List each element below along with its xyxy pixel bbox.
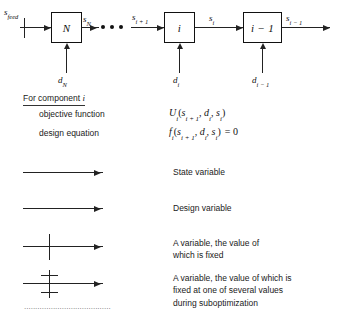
design-line-di-minus-1: [262, 49, 263, 73]
legend-state-variable-arrowhead-icon: [94, 170, 101, 176]
legend-suboptimization-cross-top: [41, 275, 58, 276]
legend-fixed-variable-tick: [49, 234, 50, 260]
figure-root: sfeed N sN si + 1 i: [0, 0, 338, 310]
component-heading-text: For component: [23, 93, 80, 103]
stream-label-si-sub: i: [213, 19, 215, 26]
design-dN-arrowhead-icon: [64, 43, 70, 49]
component-heading-symbol: i: [83, 93, 86, 103]
objective-arg2-sub: i: [209, 115, 211, 123]
legend-state-variable-text: State variable: [173, 166, 225, 178]
process-box-N: N: [51, 12, 82, 43]
figure-caption-clipped: .......................................: [0, 302, 338, 310]
legend-row-design-variable: Design variable: [0, 196, 338, 224]
stream-label-si-minus-1: si − 1: [286, 14, 302, 23]
design-di-arrowhead-icon: [177, 43, 183, 49]
feed-fixed-tick: [24, 18, 25, 38]
component-heading: For component i: [23, 92, 85, 106]
objective-arg1-sub: i + 1: [185, 115, 199, 123]
legend: State variable Design variable A variabl…: [0, 160, 338, 305]
objective-func-close: ): [222, 107, 225, 118]
stream-label-sN: sN: [83, 15, 91, 24]
design-equation-label: design equation: [39, 128, 99, 139]
stream-label-feed-base: s: [4, 7, 8, 17]
objective-function-expression: Ui(si + 1, di, si): [169, 108, 225, 118]
legend-row-fixed-variable: A variable, the value of which is fixed: [0, 232, 338, 264]
design-label-dN-base: d: [58, 75, 63, 85]
stream-label-si-minus-1-base: s: [286, 13, 290, 23]
process-chain-diagram: sfeed N sN si + 1 i: [0, 0, 338, 88]
figure-caption-text: .......................................: [24, 302, 111, 310]
stream-label-feed: sfeed: [4, 8, 18, 17]
ellipsis-dot-1: [101, 25, 105, 29]
design-eq-close: ): [217, 126, 220, 137]
stream-label-sN-sub: N: [87, 20, 91, 27]
stream-label-si-minus-1-sub: i − 1: [290, 19, 303, 26]
stream-label-feed-sub: feed: [8, 13, 19, 20]
ellipsis-dot-2: [110, 25, 114, 29]
process-box-i-minus-1: i − 1: [243, 12, 282, 43]
legend-design-variable-arrowhead-icon: [94, 206, 101, 212]
feed-arrowhead-icon: [44, 25, 51, 31]
stream-label-si-plus-1: si + 1: [132, 13, 148, 22]
stream-si-minus-1-arrowhead-icon: [323, 25, 330, 31]
stream-label-si: si: [209, 14, 214, 23]
legend-row-state-variable: State variable: [0, 160, 338, 188]
design-arg2-base: d: [200, 126, 205, 137]
legend-suboptimization-variable-arrowhead-icon: [94, 281, 101, 287]
design-label-di-minus-1-sub: i − 1: [257, 81, 270, 88]
stream-label-si-base: s: [209, 13, 213, 23]
legend-suboptimization-cross-bottom: [41, 292, 58, 293]
stream-label-sN-base: s: [83, 14, 87, 24]
design-label-dN-sub: N: [63, 81, 67, 88]
legend-row-suboptimization-variable: A variable, the value of which is fixed …: [0, 268, 338, 306]
legend-design-variable-line: [23, 208, 103, 209]
objective-arg3-sub: i: [220, 115, 222, 123]
legend-fixed-variable-text: A variable, the value of which is fixed: [173, 237, 259, 262]
process-box-i-minus-1-label: i − 1: [251, 22, 274, 34]
design-line-dN: [66, 49, 67, 73]
legend-design-variable-text: Design variable: [173, 202, 232, 214]
legend-state-variable-line: [23, 172, 103, 173]
process-box-i-label: i: [178, 22, 181, 34]
stream-sN-arrowhead-icon: [90, 25, 97, 31]
design-label-di-base: d: [173, 75, 178, 85]
stream-si-arrowhead-icon: [236, 25, 243, 31]
design-label-di: di: [173, 76, 179, 85]
design-di-minus-1-arrowhead-icon: [260, 43, 266, 49]
design-equation-expression: fi(si + 1, di, si)= 0: [169, 127, 238, 137]
design-eq-equals: = 0: [225, 126, 238, 137]
design-label-dN: dN: [58, 76, 67, 85]
design-line-di: [179, 49, 180, 73]
stream-si-plus-1-arrowhead-icon: [157, 25, 164, 31]
process-box-N-label: N: [63, 22, 71, 34]
design-eq-sub: i: [172, 134, 174, 142]
legend-fixed-variable-arrowhead-icon: [94, 244, 101, 250]
component-definition-block: For component i objective function Ui(si…: [0, 92, 338, 152]
design-arg3-base: s: [212, 126, 216, 137]
objective-function-label: objective function: [39, 109, 105, 120]
design-arg2-sub: i: [205, 134, 207, 142]
design-label-di-sub: i: [178, 81, 180, 88]
legend-suboptimization-variable-line: [23, 283, 103, 284]
stream-label-si-plus-1-sub: i + 1: [136, 18, 149, 25]
stream-label-si-plus-1-base: s: [132, 12, 136, 22]
process-box-i: i: [164, 12, 195, 43]
objective-func-sub: i: [176, 115, 178, 123]
ellipsis-dot-3: [119, 25, 123, 29]
legend-fixed-variable-line: [23, 246, 103, 247]
design-label-di-minus-1-base: d: [252, 75, 257, 85]
design-arg1-sub: i + 1: [181, 134, 195, 142]
design-label-di-minus-1: di − 1: [252, 76, 269, 85]
